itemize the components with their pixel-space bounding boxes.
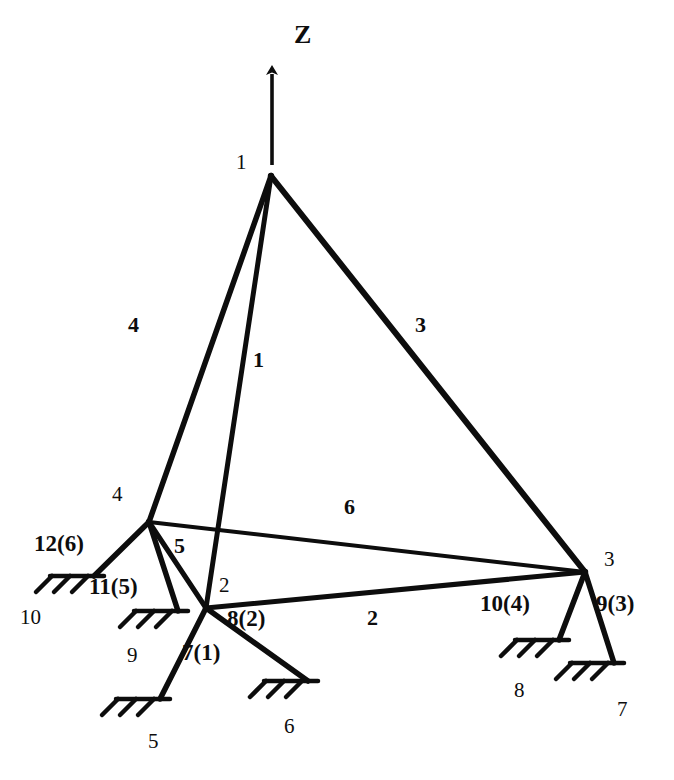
member-label-1: 1 xyxy=(253,349,264,371)
support-label-7: 7(1) xyxy=(182,641,220,664)
joint-label-4: 4 xyxy=(112,484,123,505)
support-bar-10 xyxy=(559,572,585,640)
member-label-6: 6 xyxy=(344,496,355,518)
joint-2 xyxy=(203,605,209,611)
member-label-2: 2 xyxy=(367,607,378,629)
ground-hatch-9-1 xyxy=(592,663,608,679)
joint-label-3: 3 xyxy=(604,549,615,570)
ground-hatch-7-1 xyxy=(138,699,154,715)
ground-hatch-10-2 xyxy=(519,640,535,656)
support-bar-12 xyxy=(94,522,149,576)
ground-hatch-10-1 xyxy=(537,640,553,656)
ground-hatch-8-2 xyxy=(268,681,284,697)
support-label-9: 9(3) xyxy=(596,592,634,615)
ground-hatch-7-2 xyxy=(120,699,136,715)
member-layer xyxy=(149,176,585,608)
ground-hatch-11-3 xyxy=(120,611,136,627)
member-label-3: 3 xyxy=(415,314,426,336)
ground-hatch-12-2 xyxy=(54,576,70,592)
ground-hatch-7-3 xyxy=(102,699,118,715)
ground-hatch-10-3 xyxy=(501,640,517,656)
truss-diagram: 1234567(1)58(2)69(3)710(4)811(5)912(6)10… xyxy=(0,0,674,780)
support-node-label-11: 9 xyxy=(127,645,138,666)
member-label-5: 5 xyxy=(174,535,185,557)
support-label-11: 11(5) xyxy=(89,575,138,598)
ground-hatch-9-2 xyxy=(574,663,590,679)
joint-1 xyxy=(268,173,274,179)
support-label-10: 10(4) xyxy=(480,592,530,615)
support-layer xyxy=(36,522,624,715)
z-axis-label: Z xyxy=(294,22,311,48)
ground-hatch-9-3 xyxy=(556,663,572,679)
support-node-label-9: 7 xyxy=(617,699,628,720)
ground-hatch-12-1 xyxy=(72,576,88,592)
support-label-8: 8(2) xyxy=(227,607,265,630)
member-3 xyxy=(271,176,585,572)
support-node-label-12: 10 xyxy=(20,607,41,628)
support-node-label-7: 5 xyxy=(148,731,159,752)
ground-hatch-8-1 xyxy=(286,681,302,697)
support-node-label-10: 8 xyxy=(514,680,525,701)
joint-3 xyxy=(582,569,588,575)
joint-4 xyxy=(146,519,152,525)
ground-hatch-12-3 xyxy=(36,576,52,592)
member-label-4: 4 xyxy=(128,314,139,336)
support-bar-9 xyxy=(585,572,614,663)
member-1 xyxy=(206,176,271,608)
ground-hatch-11-2 xyxy=(138,611,154,627)
truss-geometry-canvas xyxy=(0,0,674,780)
joint-label-1: 1 xyxy=(236,152,247,173)
joint-label-2: 2 xyxy=(219,575,230,596)
ground-hatch-8-3 xyxy=(250,681,266,697)
support-node-label-8: 6 xyxy=(284,716,295,737)
ground-hatch-11-1 xyxy=(156,611,172,627)
support-label-12: 12(6) xyxy=(34,532,84,555)
